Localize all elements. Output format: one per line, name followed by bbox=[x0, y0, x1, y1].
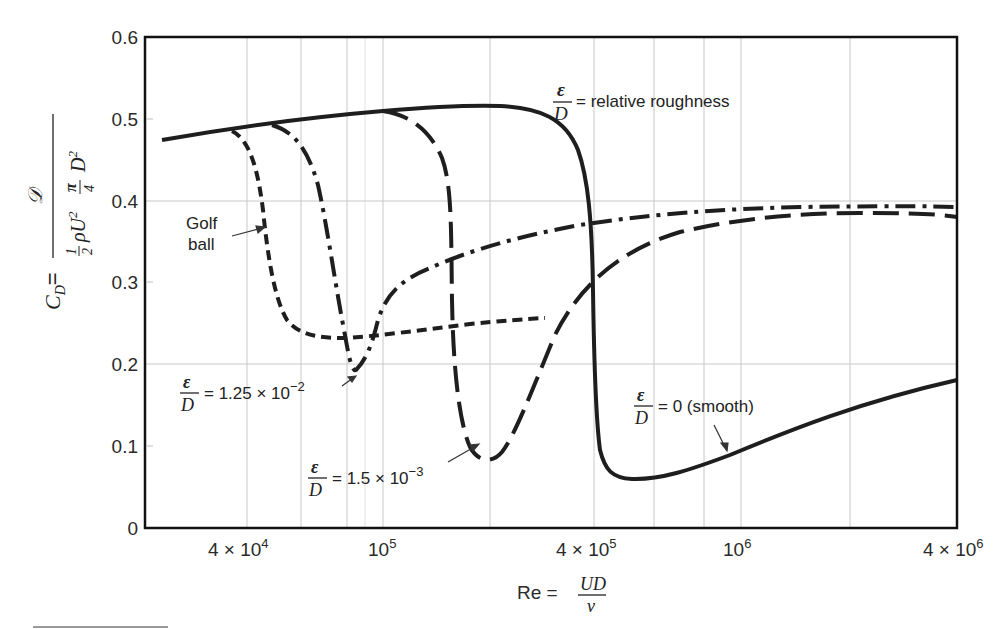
x-axis-label: Re = UD v bbox=[517, 574, 606, 616]
svg-text:ε: ε bbox=[557, 79, 565, 100]
svg-text:D: D bbox=[634, 408, 648, 428]
svg-text:0.2: 0.2 bbox=[112, 354, 138, 375]
svg-text:= 0 (smooth): = 0 (smooth) bbox=[658, 397, 754, 416]
svg-text:106: 106 bbox=[723, 536, 751, 560]
annotation-relative-roughness: ε D = relative roughness bbox=[553, 79, 730, 124]
drag-coefficient-chart: 0.6 0.5 0.4 0.3 0.2 0.1 0 4 × 104 105 4 … bbox=[0, 0, 1008, 629]
svg-text:4 × 105: 4 × 105 bbox=[556, 536, 617, 560]
svg-text:D: D bbox=[308, 480, 322, 500]
svg-text:𝒟: 𝒟 bbox=[24, 185, 46, 205]
svg-text:4 × 104: 4 × 104 bbox=[208, 536, 269, 560]
y-tick-marks bbox=[147, 119, 153, 446]
svg-text:CD=: CD= bbox=[40, 272, 68, 310]
annotation-roughness-1.5e-3: ε D = 1.5 × 10−3 bbox=[308, 457, 423, 500]
svg-text:v: v bbox=[587, 596, 595, 616]
svg-text:ε: ε bbox=[183, 372, 191, 392]
y-axis-label: CD= 𝒟 1 2 ρU2 π 4 D2 bbox=[24, 114, 97, 310]
svg-text:Golf: Golf bbox=[186, 214, 217, 233]
x-tick-labels: 4 × 104 105 4 × 105 106 4 × 106 bbox=[208, 536, 984, 560]
svg-text:D: D bbox=[180, 395, 194, 415]
svg-text:4 × 106: 4 × 106 bbox=[923, 536, 984, 560]
svg-text:π: π bbox=[62, 182, 79, 192]
annotation-roughness-1.25e-2: ε D = 1.25 × 10−2 bbox=[180, 372, 305, 415]
svg-text:UD: UD bbox=[580, 574, 606, 594]
curve-1.25e-2 bbox=[272, 125, 957, 370]
svg-text:0.4: 0.4 bbox=[112, 191, 139, 212]
svg-text:ε: ε bbox=[637, 385, 645, 405]
svg-text:0.5: 0.5 bbox=[112, 109, 138, 130]
svg-text:0.6: 0.6 bbox=[112, 27, 138, 48]
curve-smooth bbox=[162, 106, 957, 479]
svg-text:D: D bbox=[553, 103, 568, 124]
svg-text:ρU2: ρU2 bbox=[65, 211, 90, 243]
svg-text:= 1.25 × 10−2: = 1.25 × 10−2 bbox=[204, 379, 305, 403]
svg-text:1: 1 bbox=[64, 248, 79, 255]
curve-golf-ball bbox=[232, 131, 545, 338]
svg-text:ball: ball bbox=[188, 235, 214, 254]
horizontal-gridlines bbox=[145, 201, 957, 364]
annotation-golf-ball: Golf ball bbox=[186, 214, 217, 254]
annotation-smooth: ε D = 0 (smooth) bbox=[634, 385, 754, 428]
svg-text:0: 0 bbox=[127, 518, 138, 539]
svg-text:D2: D2 bbox=[65, 151, 89, 173]
svg-text:ε: ε bbox=[311, 457, 319, 477]
plot-frame bbox=[145, 37, 957, 528]
svg-text:= relative roughness: = relative roughness bbox=[576, 92, 730, 111]
svg-text:Re =: Re = bbox=[517, 582, 558, 603]
y-tick-labels: 0.6 0.5 0.4 0.3 0.2 0.1 0 bbox=[112, 27, 139, 539]
svg-text:= 1.5 × 10−3: = 1.5 × 10−3 bbox=[332, 464, 423, 488]
svg-text:0.1: 0.1 bbox=[112, 436, 138, 457]
svg-text:2: 2 bbox=[80, 248, 95, 255]
svg-text:4: 4 bbox=[82, 185, 97, 192]
svg-text:105: 105 bbox=[368, 536, 396, 560]
vertical-gridlines bbox=[247, 37, 850, 528]
svg-text:0.3: 0.3 bbox=[112, 272, 138, 293]
